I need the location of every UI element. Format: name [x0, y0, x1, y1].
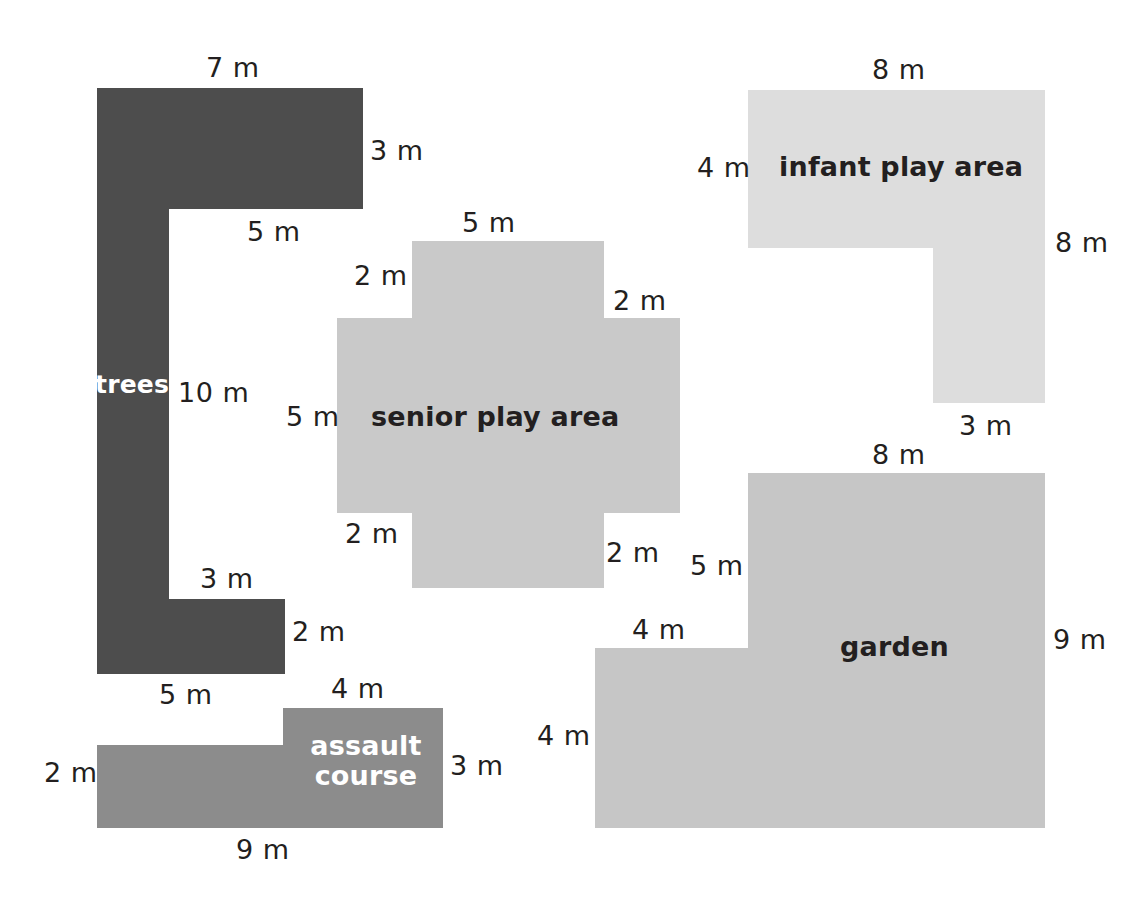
playground-plan-canvas: trees 7 m 3 m 5 m 10 m 3 m 2 m 5 m senio… — [0, 0, 1145, 911]
infant-dim-top-8m: 8 m — [872, 56, 926, 83]
assault-course-label: assault course — [291, 731, 441, 791]
senior-dim-topright-2m: 2 m — [613, 287, 667, 314]
trees-dim-inner-10m: 10 m — [178, 379, 249, 406]
garden-dim-step-4m: 4 m — [632, 616, 686, 643]
infant-play-area-label: infant play area — [779, 152, 1023, 182]
assault-dim-left-2m: 2 m — [44, 759, 98, 786]
trees-dim-inner-5m: 5 m — [247, 218, 301, 245]
infant-dim-right-8m: 8 m — [1055, 229, 1109, 256]
senior-dim-topleft-2m: 2 m — [354, 262, 408, 289]
assault-dim-bottom-9m: 9 m — [236, 836, 290, 863]
garden-dim-upperleft-5m: 5 m — [690, 552, 744, 579]
assault-course-label-line2: course — [315, 760, 418, 791]
trees-label: trees — [95, 371, 169, 399]
garden-lower-left-block — [595, 648, 748, 828]
trees-dim-inner-3m: 3 m — [200, 565, 254, 592]
senior-dim-bottomright-2m: 2 m — [606, 539, 660, 566]
trees-dim-bottom-5m: 5 m — [159, 681, 213, 708]
assault-dim-right-3m: 3 m — [450, 752, 504, 779]
senior-dim-top-5m: 5 m — [462, 209, 516, 236]
garden-dim-top-8m: 8 m — [872, 441, 926, 468]
infant-right-leg — [933, 90, 1045, 403]
infant-dim-left-4m: 4 m — [697, 154, 751, 181]
assault-dim-top-4m: 4 m — [331, 675, 385, 702]
infant-dim-bottom-3m: 3 m — [959, 412, 1013, 439]
trees-dim-right-2m: 2 m — [292, 618, 346, 645]
garden-dim-lowerleft-4m: 4 m — [537, 722, 591, 749]
assault-course-label-line1: assault — [310, 730, 421, 761]
senior-dim-bottomleft-2m: 2 m — [345, 520, 399, 547]
trees-bottom-bar — [97, 599, 285, 674]
senior-dim-left-5m: 5 m — [286, 403, 340, 430]
garden-label: garden — [840, 632, 949, 662]
trees-dim-top-7m: 7 m — [206, 54, 260, 81]
senior-play-area-label: senior play area — [371, 402, 619, 432]
trees-dim-right-3m: 3 m — [370, 137, 424, 164]
garden-dim-right-9m: 9 m — [1053, 626, 1107, 653]
